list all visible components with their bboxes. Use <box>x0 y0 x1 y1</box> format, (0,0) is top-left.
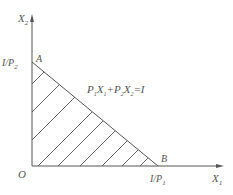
point-a-label: A <box>35 53 43 64</box>
y-intercept-label: I/P2 <box>1 57 18 71</box>
y-axis-label: X2 <box>17 12 29 27</box>
origin-label: O <box>18 168 26 180</box>
x-axis-label: X1 <box>211 172 222 187</box>
budget-equation: P1X1+P2X2=I <box>86 83 146 97</box>
point-b-label: B <box>161 153 167 164</box>
x-intercept-label: I/P1 <box>149 173 166 187</box>
y-axis-arrow-icon <box>30 14 34 22</box>
budget-diagram: X2 X1 O I/P2 I/P1 A B P1X1+P2X2=I <box>0 0 233 195</box>
x-axis-arrow-icon <box>216 164 224 168</box>
feasible-region-hatching <box>32 56 190 166</box>
